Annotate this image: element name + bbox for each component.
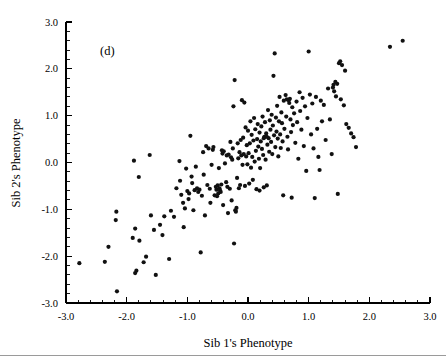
data-point: [230, 158, 234, 162]
data-point: [208, 201, 212, 205]
data-point: [297, 90, 301, 94]
data-point: [277, 95, 281, 99]
data-point: [248, 141, 252, 145]
data-point: [401, 39, 405, 43]
data-point: [313, 196, 317, 200]
data-point: [253, 127, 257, 131]
data-point: [137, 175, 141, 179]
x-tick-label: 3.0: [423, 311, 436, 322]
data-point: [131, 236, 135, 240]
data-point: [205, 183, 209, 187]
x-axis-tick-labels: -3.0-2.0-1.00.01.02.03.0: [58, 311, 437, 322]
data-point: [259, 124, 263, 128]
data-point: [197, 188, 201, 192]
data-point: [228, 140, 232, 144]
data-point: [332, 89, 336, 93]
data-point: [273, 51, 277, 55]
data-point: [259, 139, 263, 143]
data-point: [194, 165, 198, 169]
data-point: [243, 184, 247, 188]
data-point: [290, 105, 294, 109]
data-point: [263, 120, 267, 124]
data-point: [174, 186, 178, 190]
data-point: [240, 163, 244, 167]
data-point: [184, 166, 188, 170]
data-point: [255, 137, 259, 141]
data-point: [310, 101, 314, 105]
data-point: [233, 78, 237, 82]
data-point: [217, 166, 221, 170]
data-point: [248, 119, 252, 123]
y-axis-title: Sib 2's Phenotype: [9, 118, 23, 208]
data-point: [268, 128, 272, 132]
data-point: [114, 210, 118, 214]
data-point: [210, 163, 214, 167]
data-point: [280, 139, 284, 143]
data-point: [211, 145, 215, 149]
data-point: [114, 218, 118, 222]
data-point: [167, 257, 171, 261]
data-point: [160, 233, 164, 237]
data-point: [245, 162, 249, 166]
data-point: [261, 153, 265, 157]
data-point: [294, 100, 298, 104]
data-point: [226, 211, 230, 215]
data-point: [178, 179, 182, 183]
data-point: [133, 226, 137, 230]
data-point: [298, 109, 302, 113]
y-tick-label: 1.0: [45, 110, 58, 121]
data-point: [307, 49, 311, 53]
data-point: [303, 104, 307, 108]
data-point: [268, 118, 272, 122]
data-point: [265, 143, 269, 147]
data-point: [182, 225, 186, 229]
data-point: [172, 215, 176, 219]
data-point: [290, 196, 294, 200]
data-point: [225, 185, 229, 189]
data-point: [169, 209, 173, 213]
data-point: [301, 96, 305, 100]
x-tick-label: 2.0: [363, 311, 376, 322]
data-point: [316, 155, 320, 159]
data-point: [103, 260, 107, 264]
scatter-points-group: [77, 39, 405, 294]
data-point: [189, 174, 193, 178]
data-point: [288, 117, 292, 121]
x-tick-label: 0.0: [241, 311, 254, 322]
data-point: [265, 183, 269, 187]
data-point: [254, 149, 258, 153]
data-point: [282, 127, 286, 131]
data-point: [273, 145, 277, 149]
y-tick-label: 0.0: [45, 157, 58, 168]
data-point: [253, 159, 257, 163]
data-point: [305, 116, 309, 120]
data-point: [148, 153, 152, 157]
data-point: [278, 132, 282, 136]
panel-label: (d): [100, 44, 115, 58]
data-point: [256, 144, 260, 148]
data-point: [296, 157, 300, 161]
data-point: [257, 189, 261, 193]
data-point: [246, 129, 250, 133]
data-point: [269, 140, 273, 144]
y-tick-label: 3.0: [45, 17, 58, 28]
x-axis-title: Sib 1's Phenotype: [203, 336, 293, 350]
data-point: [284, 93, 288, 97]
y-axis-ticks: [66, 22, 72, 303]
data-point: [347, 126, 351, 130]
data-point: [280, 121, 284, 125]
data-point: [106, 245, 110, 249]
data-point: [199, 250, 203, 254]
data-point: [270, 152, 274, 156]
data-point: [295, 120, 299, 124]
data-point: [315, 127, 319, 131]
data-point: [183, 206, 187, 210]
y-tick-label: -2.0: [41, 251, 58, 262]
data-point: [302, 144, 306, 148]
x-axis-ticks: [66, 297, 430, 303]
data-point: [388, 45, 392, 49]
data-point: [177, 159, 181, 163]
data-point: [334, 94, 338, 98]
data-point: [251, 178, 255, 182]
data-point: [222, 149, 226, 153]
